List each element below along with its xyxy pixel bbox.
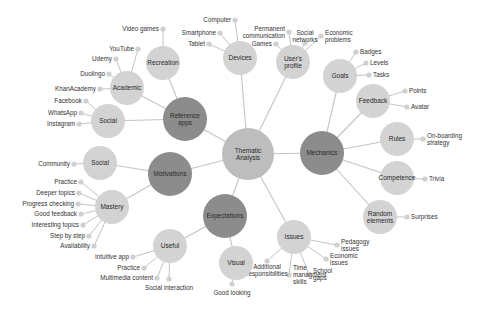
leaf-devices-1[interactable]: Smartphone xyxy=(182,29,217,37)
leaf-label: Instagram xyxy=(47,120,75,128)
leaf-academic-1[interactable]: Udemy xyxy=(92,55,113,63)
leaf-label: Practice xyxy=(117,264,140,271)
leaf-useful-2[interactable]: Multimedia content xyxy=(100,274,153,281)
leaf-mastery-1[interactable]: Deeper topics xyxy=(36,189,75,197)
node-random-elements[interactable]: Randomelements xyxy=(363,200,397,234)
leaf-goals-1[interactable]: Levels xyxy=(370,59,388,66)
leaf-mastery-0[interactable]: Practice xyxy=(54,178,77,185)
node-label: profile xyxy=(284,62,302,70)
leaf-label: Social interaction xyxy=(145,284,193,291)
node-goals[interactable]: Goals xyxy=(323,59,357,93)
leaf-label: Badges xyxy=(360,48,381,56)
leaf-users-profile-2[interactable]: Socialnetworks xyxy=(292,29,317,43)
leaf-label: Surprises xyxy=(411,213,438,221)
leaf-dot-icon xyxy=(160,26,165,31)
leaf-rules-0[interactable]: On-boardingstrategy xyxy=(427,132,463,147)
node-recreation[interactable]: Recreation xyxy=(146,46,180,80)
leaf-dot-icon xyxy=(76,190,81,195)
leaf-users-profile-1[interactable]: Permanentcommunication xyxy=(243,25,286,39)
leaf-mastery-2[interactable]: Progress checking xyxy=(22,200,74,208)
leaf-label: Smartphone xyxy=(182,29,217,37)
leaf-visual-0[interactable]: Good looking xyxy=(213,289,251,297)
leaf-label: Good looking xyxy=(213,289,251,297)
leaf-issues-0[interactable]: Pedagogyissues xyxy=(341,238,370,252)
leaf-devices-2[interactable]: Tablet xyxy=(188,40,205,47)
node-label: Expectations xyxy=(206,212,244,220)
node-competence[interactable]: Competence xyxy=(379,161,416,195)
leaf-competence-0[interactable]: Trivia xyxy=(429,175,445,182)
leaf-label: Intuitive app xyxy=(95,253,129,261)
leaf-dot-icon xyxy=(206,41,211,46)
leaf-label: responsibilities xyxy=(246,270,287,278)
leaf-dot-icon xyxy=(97,86,102,91)
leaf-label: Interesting topics xyxy=(31,221,79,229)
leaf-label: Duolingo xyxy=(80,70,105,78)
leaf-dot-icon xyxy=(217,30,222,35)
leaf-social-apps-0[interactable]: Facebook xyxy=(54,97,83,104)
node-devices[interactable]: Devices xyxy=(223,41,257,75)
node-visual[interactable]: Visual xyxy=(219,246,253,280)
node-users-profile[interactable]: User'sprofile xyxy=(276,45,310,79)
node-rules[interactable]: Rules xyxy=(380,122,414,156)
leaf-academic-3[interactable]: KhanAcademy xyxy=(55,85,97,93)
node-expectations[interactable]: Expectations xyxy=(203,194,247,238)
node-useful[interactable]: Useful xyxy=(153,229,187,263)
leaf-mastery-5[interactable]: Step by step xyxy=(50,232,86,240)
node-label: Thematic xyxy=(235,147,262,154)
leaf-academic-0[interactable]: YouTube xyxy=(109,45,134,52)
leaf-recreation-0[interactable]: Video games xyxy=(122,25,159,33)
node-label: Devices xyxy=(228,54,252,61)
leaf-label: YouTube xyxy=(109,45,134,52)
node-motivations[interactable]: Motivations xyxy=(148,152,192,196)
node-feedback[interactable]: Feedback xyxy=(356,84,390,118)
leaf-users-profile-3[interactable]: Economicproblems xyxy=(325,29,353,44)
node-mechanics[interactable]: Mechanics xyxy=(300,131,344,175)
node-reference-apps[interactable]: Referenceapps xyxy=(163,97,207,141)
mind-map-diagram: ComputerSmartphoneTabletGamesPermanentco… xyxy=(0,0,481,319)
leaf-dot-icon xyxy=(78,110,83,115)
leaf-devices-0[interactable]: Computer xyxy=(203,16,231,24)
leaf-label: Step by step xyxy=(50,232,86,240)
node-label: Issues xyxy=(285,233,305,240)
node-thematic-analysis[interactable]: ThematicAnalysis xyxy=(222,128,274,180)
leaf-dot-icon xyxy=(323,256,328,261)
leaf-dot-icon xyxy=(78,179,83,184)
node-social-apps[interactable]: Social xyxy=(91,104,125,138)
leaf-dot-icon xyxy=(363,60,368,65)
leaf-label: Trivia xyxy=(429,175,445,182)
node-mastery[interactable]: Mastery xyxy=(95,190,129,224)
leaf-users-profile-0[interactable]: Games xyxy=(252,40,272,47)
leaf-random-elements-0[interactable]: Surprises xyxy=(411,213,438,221)
node-social-motivation[interactable]: Social xyxy=(83,146,117,180)
node-academic[interactable]: Academic xyxy=(110,71,144,105)
leaf-dot-icon xyxy=(86,233,91,238)
leaf-label: Time xyxy=(293,264,307,271)
leaf-mastery-3[interactable]: Good feedback xyxy=(34,210,78,217)
leaf-dot-icon xyxy=(232,17,237,22)
leaf-feedback-1[interactable]: Avatar xyxy=(411,103,429,110)
leaf-academic-2[interactable]: Duolingo xyxy=(80,70,105,78)
leaf-dot-icon xyxy=(318,33,323,38)
leaf-social-apps-2[interactable]: Instagram xyxy=(47,120,75,128)
node-issues[interactable]: Issues xyxy=(277,220,311,254)
leaf-social-apps-1[interactable]: WhatsApp xyxy=(48,109,78,117)
node-label: Random xyxy=(368,210,393,217)
leaf-feedback-0[interactable]: Points xyxy=(409,87,427,94)
leaf-useful-3[interactable]: Social interaction xyxy=(145,284,193,291)
leaf-mastery-4[interactable]: Interesting topics xyxy=(31,221,79,229)
leaf-label: Permanent xyxy=(254,25,285,32)
leaf-goals-2[interactable]: Tasks xyxy=(373,71,389,78)
node-label: Reference xyxy=(170,112,200,119)
leaf-social-motivation-0[interactable]: Community xyxy=(38,160,71,168)
leaf-dot-icon xyxy=(229,281,234,286)
leaf-useful-1[interactable]: Practice xyxy=(117,264,140,271)
leaf-mastery-6[interactable]: Availability xyxy=(60,242,90,250)
leaf-label: issues xyxy=(341,245,359,252)
leaf-goals-0[interactable]: Badges xyxy=(360,48,381,56)
leaf-dot-icon xyxy=(80,222,85,227)
mind-map-canvas: ComputerSmartphoneTabletGamesPermanentco… xyxy=(0,0,481,319)
node-label: Useful xyxy=(161,242,180,249)
leaf-issues-1[interactable]: Economicissues xyxy=(330,252,358,266)
leaf-useful-0[interactable]: Intuitive app xyxy=(95,253,129,261)
leaf-dot-icon xyxy=(420,136,425,141)
